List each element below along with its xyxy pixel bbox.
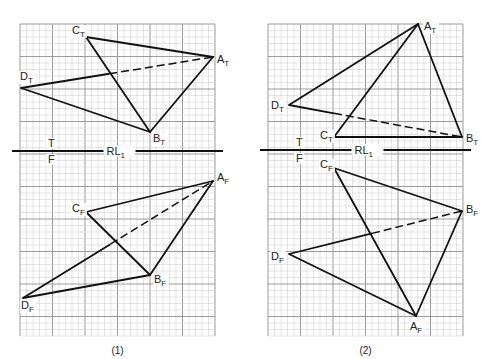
edge-CA bbox=[334, 24, 418, 137]
edge-CB bbox=[86, 37, 150, 132]
drawing-canvas: RL1TFATBTCTDTAFBFCFDF(1)RL1TFATBTCTDTAFB… bbox=[0, 0, 482, 359]
top-view-marker: T bbox=[48, 137, 55, 149]
edge-BA bbox=[150, 57, 213, 132]
panel-2: RL1TFATBTCTDTAFBFCFDF(2) bbox=[260, 20, 481, 356]
edge-BA bbox=[416, 211, 462, 316]
grid-paper bbox=[268, 24, 463, 336]
front-view-marker: F bbox=[296, 152, 303, 164]
edge-DB-visible bbox=[289, 233, 372, 254]
edge-DA bbox=[289, 24, 418, 105]
edge-DA-hidden bbox=[109, 57, 213, 74]
top-view: ATBTCTDT bbox=[19, 24, 232, 147]
front-view-marker: F bbox=[48, 153, 55, 165]
panel-caption: (2) bbox=[359, 345, 371, 356]
edge-DB-visible bbox=[289, 105, 334, 113]
front-view: AFBFCFDF bbox=[20, 171, 232, 314]
edge-CA bbox=[334, 168, 416, 316]
edge-BA bbox=[150, 181, 213, 275]
edge-DB-hidden bbox=[372, 211, 462, 233]
grid-paper bbox=[20, 24, 215, 336]
edge-CA bbox=[86, 181, 213, 212]
edge-CA bbox=[86, 37, 213, 57]
top-view-marker: T bbox=[296, 136, 303, 148]
edge-CB bbox=[86, 212, 150, 275]
panel-caption: (1) bbox=[111, 345, 123, 356]
edge-AB bbox=[418, 24, 462, 137]
panel-1: RL1TFATBTCTDTAFBFCFDF(1) bbox=[12, 24, 232, 356]
front-view: AFBFCFDF bbox=[270, 158, 481, 335]
